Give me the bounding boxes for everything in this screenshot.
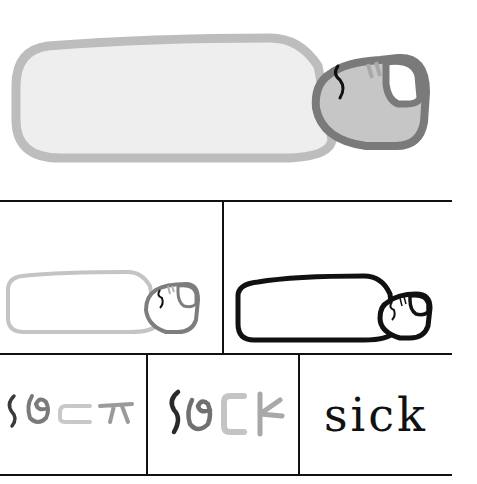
top-pictograph-panel: [0, 0, 477, 200]
glyph-step-1-panel: [0, 356, 146, 474]
gray-outline-pictograph-panel: [0, 202, 222, 353]
black-outline-pictograph-panel: [224, 202, 452, 353]
glyph-step-2-panel: [148, 356, 298, 474]
sick-person-pictograph-black: [224, 202, 452, 353]
final-word-text: sick: [324, 388, 428, 442]
grid-line-middle: [0, 353, 452, 355]
glyph-step-2: [148, 356, 298, 474]
grid-line-bottom: [0, 474, 452, 476]
final-word-panel: sick: [300, 356, 452, 474]
sick-person-pictograph-large: [0, 0, 477, 200]
sick-person-pictograph-gray: [0, 202, 222, 353]
glyph-step-1: [0, 356, 146, 474]
